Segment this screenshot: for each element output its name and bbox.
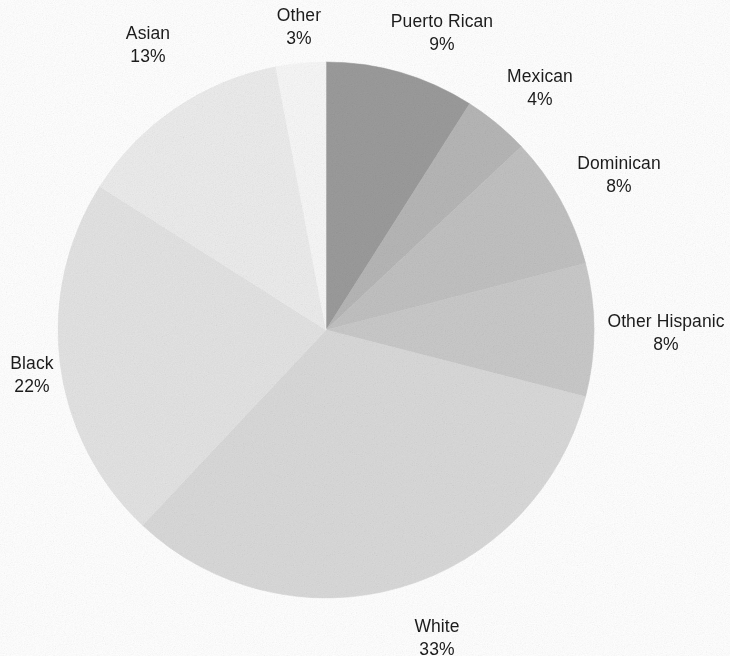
pie-label-dominican: Dominican 8%: [529, 152, 709, 198]
pie-slices-group: [57, 61, 595, 599]
pie-label-other-hispanic-value: 8%: [576, 333, 730, 356]
pie-label-puerto-rican-value: 9%: [352, 33, 532, 56]
pie-label-mexican-name: Mexican: [450, 65, 630, 88]
pie-label-white-value: 33%: [347, 638, 527, 656]
pie-label-black-value: 22%: [0, 375, 122, 398]
pie-label-dominican-value: 8%: [529, 175, 709, 198]
pie-label-asian-value: 13%: [58, 45, 238, 68]
pie-label-mexican-value: 4%: [450, 88, 630, 111]
pie-label-white-name: White: [347, 615, 527, 638]
pie-label-other-hispanic: Other Hispanic 8%: [576, 310, 730, 356]
pie-label-dominican-name: Dominican: [529, 152, 709, 175]
pie-label-mexican: Mexican 4%: [450, 65, 630, 111]
pie-label-black: Black 22%: [0, 352, 122, 398]
pie-label-white: White 33%: [347, 615, 527, 656]
pie-label-other-hispanic-name: Other Hispanic: [576, 310, 730, 333]
pie-label-asian: Asian 13%: [58, 22, 238, 68]
pie-label-asian-name: Asian: [58, 22, 238, 45]
pie-chart: Other 3% Puerto Rican 9% Mexican 4% Domi…: [0, 0, 730, 656]
pie-label-black-name: Black: [0, 352, 122, 375]
pie-label-puerto-rican-name: Puerto Rican: [352, 10, 532, 33]
pie-label-puerto-rican: Puerto Rican 9%: [352, 10, 532, 56]
